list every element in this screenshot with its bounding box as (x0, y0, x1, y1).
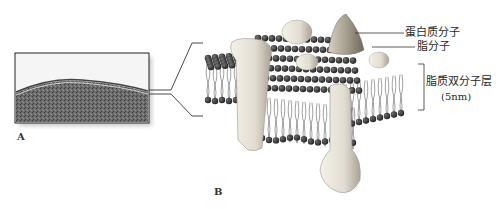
lipid-head-upper (279, 85, 286, 92)
lipid-head-upper (347, 77, 354, 84)
lipid-head-lower (266, 137, 272, 143)
lipid-head-upper (215, 63, 222, 70)
lipid-head-upper (314, 86, 321, 93)
protein-molecule-label: 蛋白质分子 (405, 27, 460, 38)
lipid-head-upper (319, 76, 326, 83)
lipid-head-upper (305, 76, 312, 83)
lipid-bilayer-model (205, 14, 404, 193)
lipid-head-upper (269, 35, 276, 42)
lipid-left-tail (220, 64, 223, 100)
lipid-head-upper (350, 57, 357, 64)
lipid-head-upper (321, 86, 328, 93)
lipid-head-upper (284, 75, 291, 82)
lipid-head-lower (363, 117, 369, 123)
lipid-center-tail (267, 98, 270, 140)
lipid-head-upper (352, 67, 359, 74)
lipid-center-tail (281, 99, 284, 141)
lipid-left-tail (228, 66, 231, 102)
lipid-right-tail (393, 76, 396, 118)
transmembrane-protein-left (231, 38, 272, 150)
lipid-head-upper (317, 66, 324, 73)
lipid-head-upper (338, 67, 345, 74)
lipid-head-upper (313, 46, 320, 53)
lipid-head-upper (300, 86, 307, 93)
lipid-head-upper (293, 86, 300, 93)
peripheral-protein-top (282, 20, 312, 44)
lipid-head-upper (208, 64, 215, 71)
lipid-head-upper (275, 65, 282, 72)
lipid-head-upper (282, 65, 289, 72)
lipid-left-tail (206, 64, 209, 100)
lipid-head-lower (370, 116, 376, 122)
lipid-head-upper (324, 67, 331, 74)
lipid-left-tail (214, 66, 217, 102)
lipid-right-tail (365, 80, 368, 122)
label-leader-lines (355, 33, 424, 110)
lipid-center-tail (317, 103, 320, 145)
lipid-molecule-label: 脂分子 (417, 41, 450, 52)
lipid-head-upper (340, 77, 347, 84)
lipid-head-upper (273, 55, 280, 62)
lipid-center-tail (274, 99, 277, 141)
lipid-right-tail (372, 79, 375, 121)
panel-a-label: A (17, 131, 25, 142)
lipid-head-upper (343, 57, 350, 64)
lipid-head-upper (354, 77, 361, 84)
lipid-head-upper (326, 77, 333, 84)
lipid-head-upper (222, 63, 229, 70)
lipid-head-upper (312, 76, 319, 83)
lipid-right-tail (386, 77, 389, 119)
integral-protein-cone (328, 14, 364, 55)
lipid-head-upper (291, 76, 298, 83)
lipid-head-upper (307, 86, 314, 93)
bilayer-thickness-label: (5nm) (441, 92, 471, 102)
lipid-center-tail (268, 98, 271, 140)
lipid-left-tail (221, 64, 224, 100)
lipid-head-lower (294, 134, 300, 140)
lipid-head-upper (331, 67, 338, 74)
bilayer-bracket (418, 64, 424, 110)
lipid-bilayer-label: 脂质双分子层 (426, 76, 492, 87)
lipid-head-upper (311, 36, 318, 43)
lipid-head-lower (322, 138, 328, 144)
lipid-right-tail (392, 76, 395, 118)
lipid-head-upper (292, 46, 299, 53)
lipid-head-lower (280, 136, 286, 142)
lipid-head-lower (356, 119, 362, 125)
lipid-right-tail (371, 79, 374, 121)
micrograph-panel (15, 53, 152, 126)
lipid-center-tail (275, 99, 278, 141)
lipid-head-upper (320, 47, 327, 54)
lipid-head-upper (276, 35, 283, 42)
lipid-head-upper (299, 46, 306, 53)
lipid-center-tail (282, 99, 285, 141)
lipid-head-upper (322, 57, 329, 64)
lipid-right-tail (379, 78, 382, 120)
lipid-head-upper (356, 87, 363, 94)
lipid-head-upper (270, 75, 277, 82)
lipid-right-tail (378, 78, 381, 120)
lipid-head-upper (298, 76, 305, 83)
panel-b-label: B (214, 186, 222, 197)
lipid-head-upper (272, 85, 279, 92)
lipid-head-upper (345, 67, 352, 74)
lipid-head-upper (336, 57, 343, 64)
lipid-head-upper (278, 45, 285, 52)
lipid-head-upper (289, 66, 296, 73)
lipid-head-upper (229, 62, 236, 69)
peripheral-protein-middle (296, 54, 318, 70)
lipid-head-upper (306, 46, 313, 53)
lipid-head-lower (301, 136, 307, 142)
lipid-head-upper (333, 77, 340, 84)
lipid-head-upper (280, 55, 287, 62)
lipid-left-tail (227, 66, 230, 102)
lipid-left-tail (213, 66, 216, 102)
lipid-head-upper (286, 85, 293, 92)
lipid-head-upper (318, 37, 325, 44)
lipid-head-upper (285, 46, 292, 53)
zoom-callout-lines (149, 43, 203, 116)
peripheral-protein-right (369, 52, 389, 68)
lipid-head-upper (329, 57, 336, 64)
lipid-head-lower (287, 134, 293, 140)
lipid-center-tail (316, 103, 319, 145)
